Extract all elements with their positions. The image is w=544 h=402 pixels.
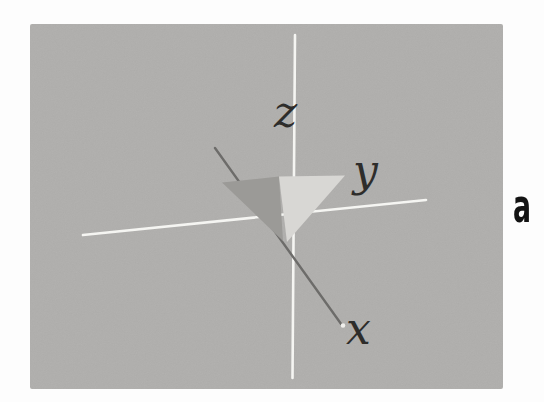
axis-label-z: z	[273, 86, 298, 137]
x-axis-end-dot	[341, 323, 346, 328]
coordinate-axes-figure: z y x	[30, 24, 503, 389]
figure-photo-panel: z y x	[30, 24, 503, 389]
axis-label-x: x	[346, 303, 371, 354]
axis-label-y: y	[351, 145, 379, 196]
figure-caption-label: a	[513, 181, 531, 232]
